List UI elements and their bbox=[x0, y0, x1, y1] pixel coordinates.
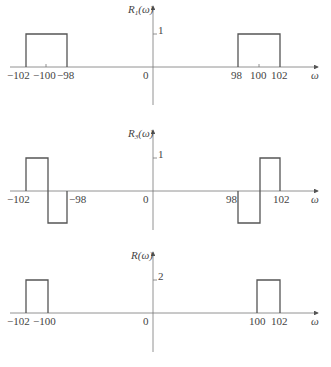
panel-r3: R3(ω) 1 ω −102 −98 0 98 102 bbox=[7, 127, 319, 230]
pulse-left bbox=[26, 34, 67, 67]
x-tick-label: 0 bbox=[143, 315, 149, 327]
x-tick-label: 100 bbox=[249, 315, 266, 327]
x-tick-label: 98 bbox=[226, 193, 238, 205]
panel-r1: R1(ω) 1 ω −102 −100 −98 0 98 100 102 bbox=[7, 3, 319, 105]
x-tick-label: −102 bbox=[7, 69, 30, 81]
x-tick-label: −100 bbox=[33, 69, 56, 81]
x-tick-label: 98 bbox=[231, 69, 243, 81]
x-axis-label: ω bbox=[311, 315, 319, 327]
waveform-left bbox=[26, 158, 67, 223]
y-tick-label: 2 bbox=[158, 270, 164, 282]
x-tick-label: −98 bbox=[57, 69, 75, 81]
y-axis-label: R3(ω) bbox=[127, 127, 154, 141]
x-tick-label: 102 bbox=[271, 315, 288, 327]
x-tick-label: 0 bbox=[143, 193, 149, 205]
y-tick-label: 1 bbox=[158, 148, 164, 160]
pulse-right bbox=[257, 280, 280, 313]
panel-r: R(ω) 2 ω −102 −100 0 100 102 bbox=[7, 249, 319, 352]
y-axis-label: R1(ω) bbox=[127, 3, 154, 17]
x-tick-label: −102 bbox=[7, 315, 30, 327]
figure: R1(ω) 1 ω −102 −100 −98 0 98 100 102 R3(… bbox=[0, 0, 331, 367]
pulse-left bbox=[26, 280, 48, 313]
x-tick-label: −98 bbox=[69, 193, 87, 205]
x-axis-label: ω bbox=[311, 193, 319, 205]
x-tick-label: −102 bbox=[7, 193, 30, 205]
pulse-right bbox=[238, 34, 280, 67]
x-axis-label: ω bbox=[311, 69, 319, 81]
x-tick-label: 0 bbox=[143, 69, 149, 81]
y-axis-label: R(ω) bbox=[130, 249, 153, 262]
x-tick-label: 102 bbox=[271, 69, 288, 81]
x-tick-label: 100 bbox=[250, 69, 267, 81]
x-tick-label: −100 bbox=[33, 315, 56, 327]
y-tick-label: 1 bbox=[158, 24, 164, 36]
waveform-right bbox=[238, 158, 280, 223]
x-tick-label: 102 bbox=[273, 193, 290, 205]
